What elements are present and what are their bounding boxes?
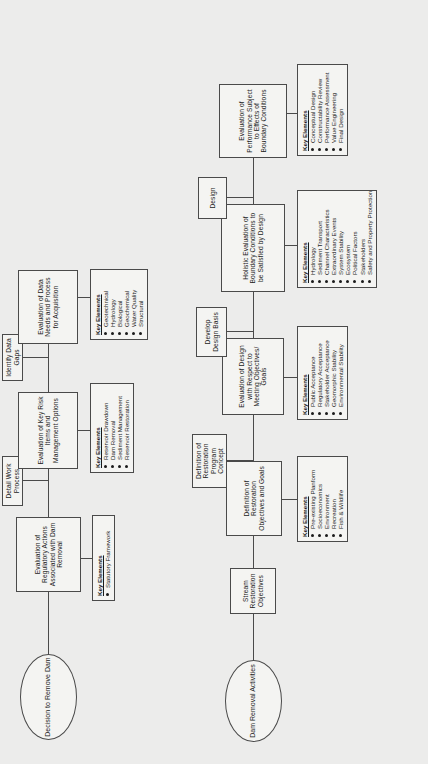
node-eval-data-needs[interactable]: Evaluation of Data Needs and Process for… xyxy=(18,270,78,344)
node-label: Evaluation of Regulatory Actions Associa… xyxy=(34,521,64,588)
connector-definition-to-eval-design xyxy=(253,415,254,461)
keybox-item: Extraordinary Events xyxy=(330,195,337,283)
node-label: Dam Removal Activities xyxy=(249,664,257,738)
connector-design xyxy=(226,197,253,198)
keybox-item: Sediment Transport xyxy=(316,195,323,283)
connector-objectives-to-definition xyxy=(253,536,254,568)
keybox-title: Key Elements xyxy=(94,388,101,468)
keybox-regulatory[interactable]: Key Elements Statutory Framework xyxy=(92,515,115,601)
keybox-item: Biological xyxy=(116,274,123,335)
connector-regulatory-to-risk xyxy=(48,469,49,517)
keybox-title: Key Elements xyxy=(301,331,308,415)
keybox-item: Water Quality xyxy=(130,274,137,335)
keybox-item: Reservoir Drawdown xyxy=(102,388,109,468)
node-holistic-boundary-conditions[interactable]: Holistic Evaluation of Boundary Conditio… xyxy=(221,204,285,292)
keybox-item: Political Factors xyxy=(351,195,358,283)
keybox-item: Structural xyxy=(137,274,144,335)
keybox-boundary-conditions[interactable]: Key Elements Hydrology Sediment Transpor… xyxy=(297,190,377,288)
keybox-performance[interactable]: Key Elements Conceptual Design Construct… xyxy=(297,64,348,156)
scanned-page: Decision to Remove Dam Evaluation of Reg… xyxy=(0,0,428,764)
keybox-item: Dam Removal xyxy=(109,388,116,468)
connector-holistic-to-performance xyxy=(253,158,254,204)
keybox-item: Safety and Property Protection xyxy=(366,195,373,283)
keybox-item: Conceptual Design xyxy=(309,69,316,151)
node-label: Stream Restoration Objectives xyxy=(242,572,264,610)
node-label: Evaluation of Key Risk Items and Managem… xyxy=(37,396,59,465)
keybox-data-needs[interactable]: Key Elements Geotechnical Hydrology Biol… xyxy=(90,269,148,340)
node-stream-restoration-objectives[interactable]: Stream Restoration Objectives xyxy=(230,568,276,614)
keybox-item: Stakeholder Acceptance xyxy=(323,331,330,415)
node-design[interactable]: Design xyxy=(198,177,227,219)
keybox-list: Public Acceptance Regulatory Acceptance … xyxy=(309,331,344,415)
keybox-design-goals[interactable]: Key Elements Public Acceptance Regulator… xyxy=(297,326,348,420)
keybox-item: Hydrology xyxy=(109,274,116,335)
keybox-item: Environmental Stability xyxy=(337,331,344,415)
keybox-list: Geotechnical Hydrology Biological Geoche… xyxy=(102,274,144,335)
keybox-item: Geochemical xyxy=(123,274,130,335)
keybox-item: Sediment Management xyxy=(116,388,123,468)
keybox-item: Ecosystem xyxy=(344,195,351,283)
keybox-item: Statutory Framework xyxy=(104,520,111,596)
keybox-item: Socioeconomics xyxy=(316,461,323,537)
keybox-title: Key Elements xyxy=(96,520,103,596)
keybox-item: Environment xyxy=(323,461,330,537)
connector-activities-to-objectives xyxy=(253,614,254,660)
node-label: Definition of Restoration Program Concep… xyxy=(195,438,225,484)
connector-decision-to-regulatory xyxy=(48,592,49,654)
keybox-item: Recreation xyxy=(330,461,337,537)
keybox-list: Pre-existing Planform Socioeconomics Env… xyxy=(309,461,344,537)
node-label: Definition of Restoration Objectives and… xyxy=(243,465,265,532)
node-label: Holistic Evaluation of Boundary Conditio… xyxy=(242,208,264,288)
node-label: Evaluation of Data Needs and Process for… xyxy=(37,274,59,340)
keybox-item: Performance Assessment xyxy=(323,69,330,151)
node-label: Design xyxy=(209,187,216,208)
keybox-list: Conceptual Design Constructability Revie… xyxy=(309,69,344,151)
keybox-list: Reservoir Drawdown Dam Removal Sediment … xyxy=(102,388,130,468)
connector-develop-design-basis xyxy=(226,331,253,332)
keybox-item: Final Design xyxy=(337,69,344,151)
keybox-title: Key Elements xyxy=(94,274,101,335)
connector-risk-to-data-needs xyxy=(48,344,49,392)
keybox-item: Reservoir Restoration xyxy=(123,388,130,468)
node-label: Evaluation of Performance Subject to Eff… xyxy=(238,88,268,154)
keybox-item: Constructability Review xyxy=(316,69,323,151)
keybox-risk-items[interactable]: Key Elements Reservoir Drawdown Dam Remo… xyxy=(90,383,134,473)
keybox-item: Channel Characteristics xyxy=(323,195,330,283)
keybox-title: Key Elements xyxy=(301,69,308,151)
keybox-item: Fish & Wildlife xyxy=(337,461,344,537)
keybox-objectives-goals[interactable]: Key Elements Pre-existing Planform Socio… xyxy=(297,456,348,542)
node-dam-removal-activities[interactable]: Dam Removal Activities xyxy=(225,660,282,742)
keybox-list: Hydrology Sediment Transport Channel Cha… xyxy=(309,195,373,283)
node-eval-design-respect-goals[interactable]: Evaluation of Design with Respect to Mee… xyxy=(222,338,284,415)
node-definition-objectives-goals[interactable]: Definition of Restoration Objectives and… xyxy=(226,461,282,536)
connector-stub-a xyxy=(48,480,49,481)
keybox-item: Stakeholders xyxy=(359,195,366,283)
keybox-item: Geotechnical xyxy=(102,274,109,335)
node-label: Decision to Remove Dam xyxy=(44,657,52,736)
connector-identify-data-gaps xyxy=(22,357,48,358)
keybox-title: Key Elements xyxy=(301,461,308,537)
node-label: Evaluation of Design with Respect to Mee… xyxy=(238,342,268,411)
node-eval-key-risk-items[interactable]: Evaluation of Key Risk Items and Managem… xyxy=(18,392,78,469)
node-decision-to-remove-dam[interactable]: Decision to Remove Dam xyxy=(20,654,77,740)
node-eval-regulatory-actions[interactable]: Evaluation of Regulatory Actions Associa… xyxy=(16,517,81,592)
node-label: Develop Design Basis xyxy=(204,311,219,353)
node-develop-design-basis[interactable]: Develop Design Basis xyxy=(196,307,227,357)
keybox-list: Statutory Framework xyxy=(104,520,111,596)
connector-detail-work-process xyxy=(22,480,48,481)
keybox-item: System Stability xyxy=(337,195,344,283)
node-definition-program-concept[interactable]: Definition of Restoration Program Concep… xyxy=(192,434,227,488)
keybox-item: Geomorphic Stability xyxy=(330,331,337,415)
keybox-item: Public Acceptance xyxy=(309,331,316,415)
connector-eval-design-to-holistic xyxy=(253,292,254,338)
keybox-item: Pre-existing Planform xyxy=(309,461,316,537)
keybox-item: Regulatory Acceptance xyxy=(316,331,323,415)
keybox-title: Key Elements xyxy=(301,195,308,283)
keybox-item: Hydrology xyxy=(309,195,316,283)
node-eval-performance-boundary[interactable]: Evaluation of Performance Subject to Eff… xyxy=(219,84,287,158)
flowchart-canvas: Decision to Remove Dam Evaluation of Reg… xyxy=(0,0,428,764)
keybox-item: Value Engineering xyxy=(330,69,337,151)
